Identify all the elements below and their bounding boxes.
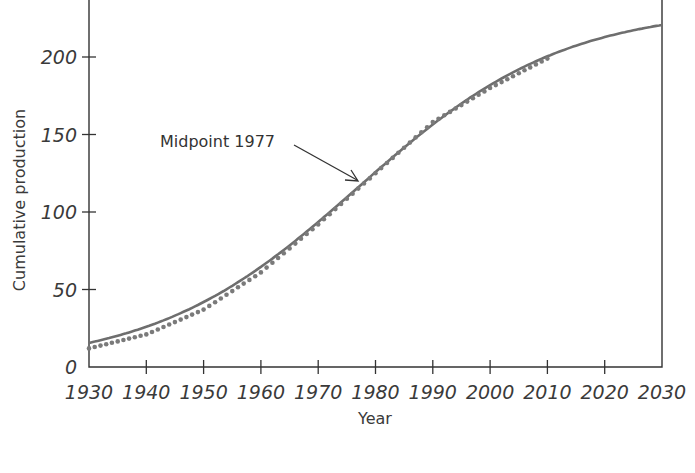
x-tick-label: 1940 (122, 381, 170, 403)
data-point (87, 346, 92, 351)
chart: 0501001502001930194019501960197019801990… (0, 0, 695, 473)
x-tick-label: 2010 (523, 381, 571, 403)
data-point (545, 56, 550, 61)
data-point (345, 197, 350, 202)
data-point (522, 68, 527, 73)
data-point (408, 140, 413, 145)
data-point (517, 71, 522, 76)
data-point (539, 59, 544, 64)
data-point (413, 135, 418, 140)
annotation-arrow-icon (294, 145, 357, 180)
data-point (236, 285, 241, 290)
data-point (224, 293, 229, 298)
axis-frame (89, 0, 662, 367)
x-tick-label: 1960 (237, 381, 285, 403)
data-point (104, 342, 109, 347)
data-point (350, 191, 355, 196)
data-point (127, 336, 132, 341)
data-point (333, 207, 338, 212)
data-point (310, 227, 315, 232)
data-point (425, 125, 430, 130)
data-point (327, 212, 332, 217)
data-point (138, 334, 143, 339)
x-tick-label: 1990 (409, 381, 457, 403)
data-point (121, 338, 126, 343)
x-tick-label: 1970 (294, 381, 342, 403)
x-tick-label: 2020 (581, 381, 629, 403)
data-point (144, 332, 149, 337)
data-point (385, 161, 390, 166)
data-point (276, 256, 281, 261)
data-point (442, 113, 447, 118)
data-point (373, 171, 378, 176)
data-point (322, 217, 327, 222)
x-axis-title: Year (357, 409, 392, 428)
data-point (471, 96, 476, 101)
data-point (494, 83, 499, 88)
data-point (253, 274, 258, 279)
data-point (264, 265, 269, 270)
x-tick-label: 1980 (351, 381, 399, 403)
data-point (368, 176, 373, 181)
data-point (396, 151, 401, 156)
data-point (230, 289, 235, 294)
y-tick-label: 200 (41, 46, 77, 68)
data-point (528, 65, 533, 70)
fit-curve (89, 25, 662, 343)
data-point (316, 222, 321, 227)
data-point (356, 186, 361, 191)
data-point (431, 120, 436, 125)
data-point (150, 330, 155, 335)
data-point (133, 335, 138, 340)
x-tick-label: 2000 (466, 381, 514, 403)
data-point (190, 312, 195, 317)
data-point (299, 237, 304, 242)
data-point (448, 110, 453, 115)
data-point (92, 345, 97, 350)
y-tick-label: 0 (65, 356, 77, 378)
data-point (499, 80, 504, 85)
x-tick-label: 1950 (179, 381, 227, 403)
data-point (453, 106, 458, 111)
data-point (161, 325, 166, 330)
x-tick-label: 1930 (65, 381, 113, 403)
midpoint-annotation: Midpoint 1977 (160, 132, 358, 181)
data-point (390, 156, 395, 161)
data-point (196, 310, 201, 315)
data-point (304, 232, 309, 237)
data-point (156, 327, 161, 332)
data-point (178, 317, 183, 322)
y-axis-title: Cumulative production (10, 109, 29, 291)
data-point (115, 339, 120, 344)
data-point (419, 130, 424, 135)
data-point (219, 296, 224, 301)
data-point (259, 270, 264, 275)
series (87, 25, 662, 351)
data-point (98, 343, 103, 348)
data-point (287, 246, 292, 251)
data-point (476, 93, 481, 98)
data-point (511, 74, 516, 79)
data-point (459, 103, 464, 108)
data-point (213, 300, 218, 305)
data-point (293, 241, 298, 246)
data-point (362, 181, 367, 186)
midpoint-label: Midpoint 1977 (160, 132, 275, 151)
data-point (167, 322, 172, 327)
tick-labels: 0501001502001930194019501960197019801990… (41, 46, 686, 403)
data-point (482, 89, 487, 94)
x-tick-label: 2030 (638, 381, 686, 403)
data-point (110, 341, 115, 346)
data-point (282, 251, 287, 256)
data-point (465, 99, 470, 104)
y-tick-label: 150 (41, 124, 77, 146)
data-point (173, 320, 178, 325)
data-point (241, 281, 246, 286)
data-point (207, 304, 212, 309)
data-point (436, 116, 441, 121)
data-point (488, 86, 493, 91)
data-point (379, 166, 384, 171)
data-point (201, 307, 206, 312)
data-point (184, 315, 189, 320)
data-point (402, 145, 407, 150)
